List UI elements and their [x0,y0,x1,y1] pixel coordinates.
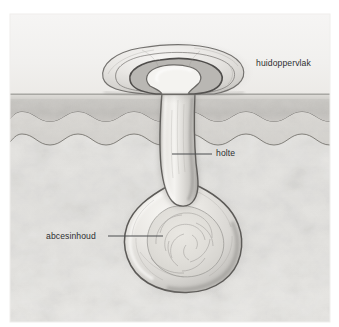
abscess-cross-section-diagram [0,0,339,327]
abscess-illustration-figure: huidoppervlak holte abcesinhoud [0,0,339,327]
label-abcesinhoud: abcesinhoud [46,232,96,241]
label-holte: holte [216,149,235,158]
label-huidoppervlak: huidoppervlak [256,59,311,68]
